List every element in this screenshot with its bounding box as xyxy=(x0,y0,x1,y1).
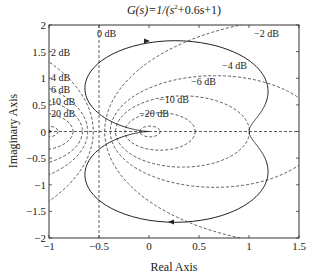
x-tick-label: 0 xyxy=(146,240,152,252)
m-circle-label: 0 dB xyxy=(97,28,117,39)
x-tick-label: 1.5 xyxy=(292,240,306,252)
x-tick-label: −0.5 xyxy=(89,240,109,252)
m-circle-label: 20 dB xyxy=(51,108,76,119)
y-tick-label: −2 xyxy=(34,232,46,244)
x-tick-label: 1 xyxy=(246,240,252,252)
x-axis-label: Real Axis xyxy=(151,260,198,274)
direction-arrow-icon xyxy=(168,220,174,225)
m-circle-label: 10 dB xyxy=(51,96,76,107)
chart-title: G(s)=1/(s2+0.6s+1) xyxy=(127,3,221,17)
y-tick-label: 0.5 xyxy=(32,99,46,111)
nyquist-chart: G(s)=1/(s2+0.6s+1) 0 dB2 dB−2 dB4 dB−4 d… xyxy=(0,0,314,279)
y-tick-label: 0 xyxy=(41,126,47,138)
nyquist-negative-branch xyxy=(85,132,268,223)
m-circle-label: 2 dB xyxy=(51,47,71,58)
y-tick-label: 1.5 xyxy=(32,46,46,58)
m-circle-grid xyxy=(0,17,314,246)
y-tick-label: −0.5 xyxy=(26,152,46,164)
m-circle-label: −20 dB xyxy=(139,108,169,119)
y-axis-label: Imaginary Axis xyxy=(6,94,20,169)
y-tick-label: −1.5 xyxy=(26,205,46,217)
m-circle-label: 6 dB xyxy=(51,84,71,95)
m-circle-label: 4 dB xyxy=(51,72,71,83)
m-circle-label: −2 dB xyxy=(254,28,279,39)
nyquist-positive-branch xyxy=(85,41,268,132)
y-tick-label: −1 xyxy=(34,179,46,191)
y-tick-label: 2 xyxy=(41,19,47,31)
m-circle-label: −6 dB xyxy=(191,76,216,87)
m-circle-label: −10 dB xyxy=(159,94,189,105)
y-tick-label: 1 xyxy=(41,72,47,84)
m-circle-label: −4 dB xyxy=(222,60,247,71)
x-tick-label: 0.5 xyxy=(192,240,206,252)
